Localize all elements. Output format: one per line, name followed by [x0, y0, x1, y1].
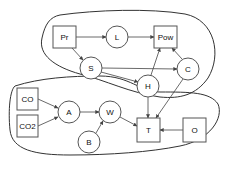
node-l: L: [106, 26, 128, 48]
upper-group-outline: [41, 10, 215, 97]
svg-text:W: W: [106, 108, 114, 117]
edge-co-a: [38, 99, 58, 108]
edge-c-pow: [172, 48, 182, 59]
node-pow: Pow: [154, 26, 177, 48]
node-s: S: [80, 57, 102, 79]
edge-h-pow: [151, 48, 160, 75]
svg-text:L: L: [115, 33, 120, 42]
edge-w-t: [120, 117, 137, 126]
edge-s-h: [101, 72, 138, 82]
svg-text:O: O: [191, 126, 197, 135]
edge-c-t: [156, 79, 183, 118]
edge-co2-a: [38, 117, 58, 126]
svg-text:CO: CO: [22, 95, 34, 104]
node-o: O: [183, 118, 206, 142]
svg-text:Pr: Pr: [61, 33, 69, 42]
node-pr: Pr: [53, 26, 76, 48]
node-co2: CO2: [17, 115, 38, 137]
edge-pr-s: [72, 48, 83, 60]
node-b: B: [78, 131, 100, 153]
svg-text:H: H: [145, 82, 151, 91]
svg-text:T: T: [146, 126, 151, 135]
node-h: H: [137, 75, 159, 97]
svg-text:Pow: Pow: [158, 33, 174, 42]
svg-text:A: A: [66, 108, 72, 117]
causal-diagram: Pr L Pow S C H CO CO2 A W B T: [0, 0, 226, 170]
node-a: A: [58, 101, 80, 123]
svg-text:S: S: [88, 64, 93, 73]
node-c: C: [177, 58, 199, 80]
svg-text:CO2: CO2: [19, 122, 36, 131]
edge-b-w: [96, 121, 103, 133]
edge-s-c: [102, 68, 177, 69]
node-co: CO: [17, 88, 38, 110]
svg-text:B: B: [86, 138, 91, 147]
node-t: T: [137, 118, 160, 142]
node-w: W: [99, 101, 121, 123]
svg-text:C: C: [185, 65, 191, 74]
